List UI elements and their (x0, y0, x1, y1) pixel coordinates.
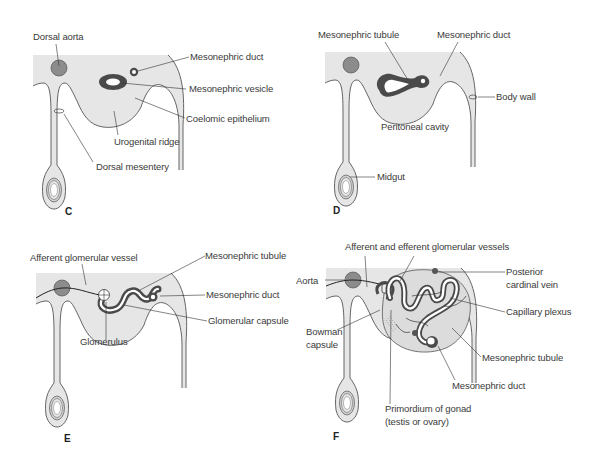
label-mesonephric-vesicle: Mesonephric vesicle (189, 83, 273, 95)
label-mesonephric-duct-e: Mesonephric duct (206, 289, 279, 301)
label-capillary-plexus: Capillary plexus (506, 306, 571, 318)
panel-letter-c: C (65, 206, 72, 217)
label-posterior-cardinal-vein-line1: Posterior (506, 266, 543, 278)
panel-c-drawing (33, 55, 184, 209)
label-midgut: Midgut (377, 171, 405, 183)
label-glomerulus: Glomerulus (80, 336, 128, 348)
panel-letter-f: F (333, 431, 339, 442)
label-dorsal-aorta: Dorsal aorta (33, 31, 84, 43)
label-afferent-efferent-vessels: Afferent and efferent glomerular vessels (345, 241, 509, 253)
label-bowman-capsule-line1: Bowman (306, 326, 342, 338)
label-glomerular-capsule: Glomerular capsule (208, 315, 289, 327)
label-dorsal-mesentery: Dorsal mesentery (96, 161, 169, 173)
label-bowman-capsule-line2: capsule (306, 339, 338, 351)
label-mesonephric-tubule-f: Mesonephric tubule (482, 352, 563, 364)
label-mesonephric-duct-c: Mesonephric duct (190, 51, 263, 63)
panel-letter-d: D (333, 205, 340, 216)
label-mesonephric-duct-d: Mesonephric duct (437, 29, 510, 41)
label-urogenital-ridge: Urogenital ridge (114, 136, 179, 148)
panel-letter-e: E (64, 433, 71, 444)
panel-f-drawing (326, 268, 477, 422)
label-afferent-glomerular-vessel: Afferent glomerular vessel (30, 252, 138, 264)
label-coelomic-epithelium: Coelomic epithelium (186, 113, 270, 125)
label-body-wall: Body wall (496, 91, 536, 103)
label-posterior-cardinal-vein-line2: cardinal vein (506, 279, 558, 291)
label-peritoneal-cavity: Peritoneal cavity (381, 121, 449, 133)
label-mesonephric-tubule-d: Mesonephric tubule (318, 29, 399, 41)
label-primordium-gonad-line2: (testis or ovary) (385, 416, 449, 428)
label-mesonephric-duct-f: Mesonephric duct (452, 380, 525, 392)
label-aorta: Aorta (296, 275, 318, 287)
label-primordium-gonad-line1: Primordium of gonad (385, 403, 471, 415)
label-mesonephric-tubule-e: Mesonephric tubule (205, 250, 286, 262)
mesonephros-development-figure: Dorsal aorta Mesonephric duct Mesonephri… (0, 0, 592, 458)
